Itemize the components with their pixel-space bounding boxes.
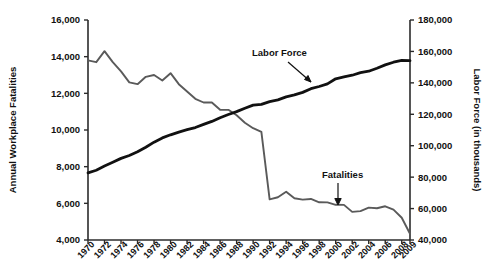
series-paths: [88, 51, 410, 234]
x-tick-label: 1996: [290, 239, 311, 260]
right-axis-title: Labor Force (in thousands): [472, 69, 483, 192]
x-tick-label: 1992: [257, 239, 278, 260]
fatalities-label: Fatalities: [322, 169, 363, 180]
left-tick-label: 14,000: [51, 51, 80, 62]
annotation-labor-force: Labor Force: [252, 47, 311, 82]
right-tick-label: 80,000: [418, 172, 447, 183]
x-tick-label: 1990: [240, 239, 261, 260]
right-tick-label: 180,000: [418, 14, 452, 25]
x-axis-tick-labels: 1970197219741976197819801982198419861988…: [75, 239, 418, 260]
left-tick-label: 4,000: [56, 234, 80, 245]
annotation-fatalities: Fatalities: [322, 169, 363, 205]
right-tick-label: 40,000: [418, 234, 447, 245]
labor-force-label: Labor Force: [252, 47, 307, 58]
x-tick-label: 1978: [141, 239, 162, 260]
left-axis: 4,0006,0008,00010,00012,00014,00016,000 …: [7, 14, 88, 245]
right-tick-label: 160,000: [418, 46, 452, 57]
x-tick-label: 1982: [174, 239, 195, 260]
x-tick-label: 2000: [323, 239, 344, 260]
x-axis: 1970197219741976197819801982198419861988…: [75, 239, 418, 260]
series-line-fatalities: [88, 51, 410, 234]
right-axis-tick-labels: 40,00060,00080,000100,000120,000140,0001…: [418, 14, 452, 245]
x-tick-label: 1984: [191, 239, 212, 260]
x-tick-label: 1976: [125, 239, 146, 260]
x-tick-label: 1986: [207, 239, 228, 260]
x-tick-label: 1988: [224, 239, 245, 260]
x-tick-label: 1972: [92, 239, 113, 260]
x-tick-label: 2004: [356, 239, 377, 260]
left-tick-label: 12,000: [51, 88, 80, 99]
right-axis: 40,00060,00080,000100,000120,000140,0001…: [410, 14, 483, 245]
left-tick-label: 16,000: [51, 14, 80, 25]
left-axis-title: Annual Workplace Fatalities: [7, 67, 18, 194]
x-tick-label: 1980: [158, 239, 179, 260]
x-tick-label: 1994: [273, 239, 294, 260]
series-line-labor-force: [88, 60, 410, 172]
dual-axis-line-chart: 4,0006,0008,00010,00012,00014,00016,000 …: [0, 0, 486, 278]
left-tick-label: 10,000: [51, 124, 80, 135]
x-tick-label: 2006: [372, 239, 393, 260]
right-tick-label: 140,000: [418, 77, 452, 88]
x-tick-label: 1998: [306, 239, 327, 260]
left-tick-label: 6,000: [56, 198, 80, 209]
right-tick-label: 120,000: [418, 109, 452, 120]
right-tick-label: 100,000: [418, 140, 452, 151]
right-tick-label: 60,000: [418, 203, 447, 214]
chart-container: 4,0006,0008,00010,00012,00014,00016,000 …: [0, 0, 486, 278]
x-tick-label: 1974: [108, 239, 129, 260]
x-tick-label: 2002: [339, 239, 360, 260]
left-tick-label: 8,000: [56, 161, 80, 172]
left-axis-tick-labels: 4,0006,0008,00010,00012,00014,00016,000: [51, 14, 80, 245]
